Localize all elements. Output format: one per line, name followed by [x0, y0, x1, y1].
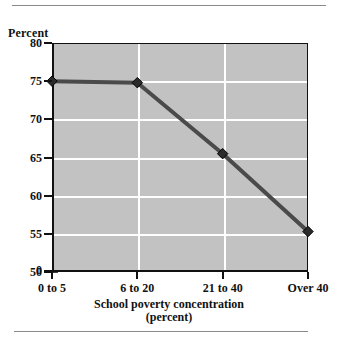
series-line	[52, 81, 308, 231]
x-tick-label: Over 40	[288, 281, 329, 296]
y-tick-mark	[44, 233, 52, 235]
y-tick-label-zero: 0	[14, 264, 42, 276]
chart-series-layer	[52, 43, 308, 272]
y-tick-label: 60	[14, 190, 42, 202]
y-tick-label: 70	[14, 113, 42, 125]
x-tick-mark	[222, 272, 224, 279]
y-tick-mark	[44, 195, 52, 197]
x-axis-caption: School poverty concentration (percent)	[0, 298, 338, 324]
y-tick-mark	[44, 118, 52, 120]
y-tick-label: 55	[14, 228, 42, 240]
y-tick-mark	[44, 157, 52, 159]
x-tick-mark	[136, 272, 138, 279]
y-tick-mark	[44, 42, 52, 44]
gridline-horizontal	[54, 272, 307, 274]
x-tick-label: 21 to 40	[203, 281, 243, 296]
page-rule-top	[12, 5, 326, 6]
x-axis-caption-line2: (percent)	[0, 311, 338, 324]
y-tick-label: 75	[14, 75, 42, 87]
x-tick-label: 0 to 5	[38, 281, 66, 296]
page-rule-bottom	[14, 331, 308, 332]
x-tick-mark	[307, 272, 309, 279]
y-tick-label: 65	[14, 152, 42, 164]
y-tick-label: 80	[14, 37, 42, 49]
y-tick-mark	[44, 80, 52, 82]
x-tick-label: 6 to 20	[120, 281, 154, 296]
x-tick-mark	[51, 272, 53, 279]
